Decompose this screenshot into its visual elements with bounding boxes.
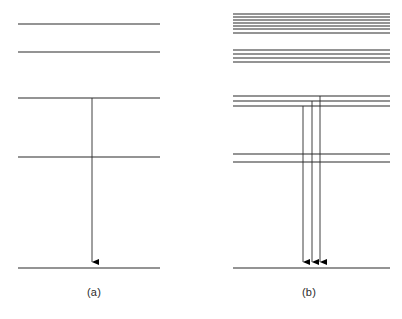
figure-background (0, 0, 402, 319)
panel-a-caption: (a) (70, 286, 118, 298)
energy-level-diagram-svg (0, 0, 402, 319)
panel-b-caption: (b) (285, 286, 333, 298)
energy-level-figure (0, 0, 402, 319)
